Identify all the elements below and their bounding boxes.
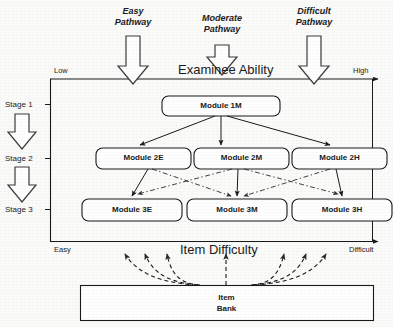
pathway-label-difficult-line2: Pathway [284, 17, 344, 28]
pathway-label-easy-line1: Easy [103, 6, 163, 17]
module-3e-label: Module 3E [82, 205, 182, 214]
edge-2h-to-3m [244, 169, 330, 196]
bank-arrow-2 [145, 254, 198, 285]
stage2-to-stage3-arrow-icon [8, 167, 36, 202]
stage-label-3: Stage 3 [5, 205, 33, 214]
stage1-to-stage2-arrow-icon [8, 114, 36, 149]
module-2e-label: Module 2E [96, 153, 191, 162]
pathway-label-moderate-line1: Moderate [192, 13, 252, 24]
ability-axis-title: Examinee Ability [178, 62, 273, 77]
edge-2e-to-3e [132, 169, 148, 196]
bank-arrow-7 [255, 254, 326, 285]
item-bank-supply-arrows [125, 254, 326, 285]
pathway-label-easy: Easy Pathway [103, 6, 163, 28]
edge-2m-to-3h [244, 169, 338, 194]
routing-stage1-to-stage2 [140, 116, 330, 145]
edge-2m-to-3e [138, 169, 232, 194]
edge-2e-to-3m [152, 169, 231, 196]
difficult-pathway-arrow-icon [299, 36, 329, 84]
difficulty-axis-title: Item Difficulty [180, 242, 258, 257]
module-2m-label: Module 2M [194, 153, 289, 162]
module-1m-label: Module 1M [162, 101, 280, 110]
item-bank-label-line2: Bank [80, 303, 373, 314]
pathway-label-moderate: Moderate Pathway [192, 13, 252, 35]
easy-pathway-arrow-icon [118, 36, 148, 84]
stage-label-1: Stage 1 [5, 100, 33, 109]
item-bank-label: Item Bank [80, 292, 373, 314]
difficulty-axis-easy-label: Easy [54, 245, 71, 254]
module-3m-label: Module 3M [187, 205, 287, 214]
bank-arrow-6 [253, 254, 306, 285]
edge-1m-to-2h [227, 116, 330, 145]
bank-arrow-3 [167, 254, 200, 285]
diagram-canvas: Easy Pathway Moderate Pathway Difficult … [0, 0, 393, 327]
stage-label-2: Stage 2 [5, 154, 33, 163]
edge-2m-to-3m [237, 169, 238, 196]
ability-axis-low-label: Low [54, 66, 68, 75]
pathway-label-difficult-line1: Difficult [284, 6, 344, 17]
diagram-vector-layer [0, 0, 393, 327]
pathway-label-difficult: Difficult Pathway [284, 6, 344, 28]
module-2h-label: Module 2H [292, 153, 387, 162]
ability-axis-high-label: High [353, 66, 368, 75]
edge-1m-to-2e [140, 116, 215, 145]
bank-arrow-5 [251, 254, 284, 285]
item-bank-label-line1: Item [80, 292, 373, 303]
pathway-label-easy-line2: Pathway [103, 17, 163, 28]
module-3h-label: Module 3H [292, 205, 392, 214]
bank-arrow-1 [125, 254, 196, 285]
difficulty-axis-difficult-label: Difficult [349, 245, 373, 254]
edge-2h-to-3h [336, 169, 342, 196]
pathway-label-moderate-line2: Pathway [192, 24, 252, 35]
